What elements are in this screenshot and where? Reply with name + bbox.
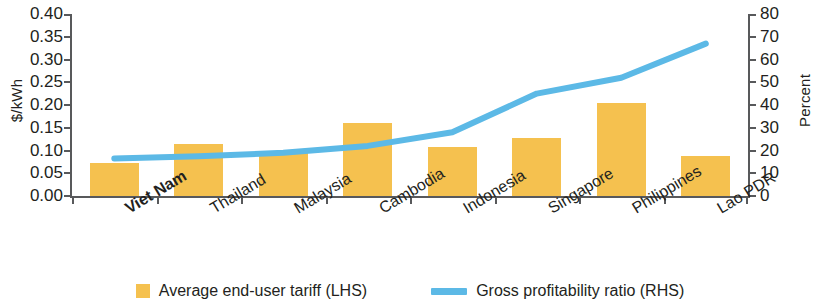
legend-label-bar: Average end-user tariff (LHS) bbox=[159, 282, 367, 300]
y-tickmark-right-7 bbox=[748, 36, 756, 38]
y-tickmark-left-7 bbox=[64, 36, 72, 38]
y-tickmark-left-1 bbox=[64, 172, 72, 174]
y-tickmark-right-6 bbox=[748, 59, 756, 61]
y-tickmark-right-8 bbox=[748, 14, 756, 16]
legend-square-icon bbox=[136, 284, 150, 298]
y-tick-right-7: 70 bbox=[760, 28, 779, 45]
y-tick-left-3: 0.15 bbox=[30, 119, 63, 136]
y-tickmark-right-4 bbox=[748, 104, 756, 106]
y-tickmark-right-2 bbox=[748, 150, 756, 152]
x-axis-category-labels: Viet NamThailandMalaysiaCambodiaIndonesi… bbox=[70, 196, 746, 274]
y-tick-right-6: 60 bbox=[760, 51, 779, 68]
y-tick-left-8: 0.40 bbox=[30, 5, 63, 22]
legend-item-bar: Average end-user tariff (LHS) bbox=[136, 282, 367, 300]
y-tick-right-4: 40 bbox=[760, 96, 779, 113]
y-tick-left-7: 0.35 bbox=[30, 28, 63, 45]
line-series bbox=[72, 14, 748, 196]
y-tickmark-right-1 bbox=[748, 172, 756, 174]
y-tickmark-right-3 bbox=[748, 127, 756, 129]
y-tickmark-left-3 bbox=[64, 127, 72, 129]
y-tick-left-0: 0.00 bbox=[30, 187, 63, 204]
chart-figure: $/kWh Percent 0.000.050.100.150.200.250.… bbox=[0, 0, 820, 308]
y-axis-left-ticks: 0.000.050.100.150.200.250.300.350.40 bbox=[11, 0, 63, 210]
y-tick-left-4: 0.20 bbox=[30, 96, 63, 113]
y-tickmark-left-8 bbox=[64, 14, 72, 16]
gross-profitability-line bbox=[114, 44, 706, 159]
legend-item-line: Gross profitability ratio (RHS) bbox=[431, 282, 684, 300]
y-tickmark-left-4 bbox=[64, 104, 72, 106]
legend-line-icon bbox=[431, 288, 467, 295]
y-tickmark-left-2 bbox=[64, 150, 72, 152]
line-series-svg bbox=[72, 14, 748, 196]
y-tick-right-3: 30 bbox=[760, 119, 779, 136]
y-tick-left-5: 0.25 bbox=[30, 73, 63, 90]
y-tick-left-6: 0.30 bbox=[30, 51, 63, 68]
y-tick-right-8: 80 bbox=[760, 5, 779, 22]
y-tick-right-5: 50 bbox=[760, 73, 779, 90]
legend-label-line: Gross profitability ratio (RHS) bbox=[476, 282, 684, 300]
y-tick-left-1: 0.05 bbox=[30, 164, 63, 181]
y-tickmark-left-6 bbox=[64, 59, 72, 61]
y-tick-left-2: 0.10 bbox=[30, 142, 63, 159]
y-tickmark-left-5 bbox=[64, 81, 72, 83]
y-tickmark-right-5 bbox=[748, 81, 756, 83]
chart-legend: Average end-user tariff (LHS) Gross prof… bbox=[0, 276, 820, 306]
y-tick-right-2: 20 bbox=[760, 142, 779, 159]
